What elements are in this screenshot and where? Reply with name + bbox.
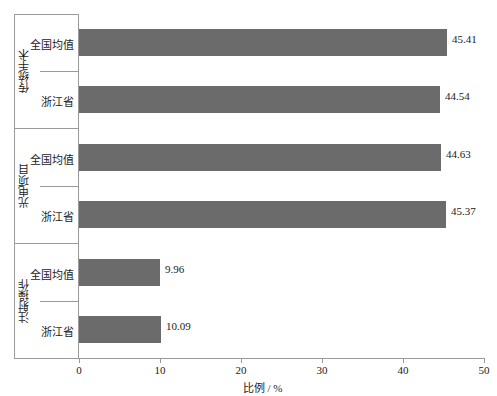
category-separator-1 <box>40 186 78 187</box>
bar-value-5: 10.09 <box>166 320 191 332</box>
x-tick-0 <box>79 358 80 363</box>
category-separator-2 <box>40 301 78 302</box>
x-tick-40 <box>403 358 404 363</box>
x-tick-30 <box>322 358 323 363</box>
bar-0 <box>79 29 447 56</box>
x-tick-label-0: 0 <box>76 364 82 376</box>
x-tick-label-50: 50 <box>479 364 490 376</box>
group-axis-spine <box>14 14 15 358</box>
bar-2 <box>79 144 441 171</box>
bar-value-1: 44.54 <box>445 90 470 102</box>
bar-value-0: 45.41 <box>452 33 477 45</box>
x-tick-10 <box>160 358 161 363</box>
x-axis-title: 比例 / % <box>0 379 497 395</box>
x-tick-label-10: 10 <box>155 364 166 376</box>
category-label-3: 浙江省 <box>41 208 74 224</box>
category-label-5: 浙江省 <box>41 323 74 339</box>
category-separator-0 <box>40 71 78 72</box>
group-label-traditional-surgery: 传统手术 <box>16 14 29 128</box>
x-tick-label-20: 20 <box>236 364 247 376</box>
category-label-0: 全国均值 <box>30 36 74 52</box>
category-label-2: 全国均值 <box>30 151 74 167</box>
bar-chart: 传统手术 光电项目 注射操作 全国均值 浙江省 全国均值 浙江省 全国均值 浙江… <box>0 0 497 396</box>
x-tick-20 <box>241 358 242 363</box>
bar-3 <box>79 201 446 228</box>
bar-value-2: 44.63 <box>446 148 471 160</box>
category-axis-spine <box>78 14 79 358</box>
bar-5 <box>79 316 161 343</box>
x-tick-50 <box>484 358 485 363</box>
category-label-1: 浙江省 <box>41 93 74 109</box>
bar-value-3: 45.37 <box>451 205 476 217</box>
bar-4 <box>79 259 160 286</box>
group-label-photoelectric-project: 光电项目 <box>16 129 29 243</box>
x-tick-label-30: 30 <box>317 364 328 376</box>
category-label-4: 全国均值 <box>30 266 74 282</box>
x-tick-label-40: 40 <box>398 364 409 376</box>
x-axis-line <box>14 358 484 359</box>
group-separator-bottom <box>14 358 78 359</box>
group-label-injection-procedure: 注射操作 <box>16 244 29 358</box>
bar-1 <box>79 86 440 113</box>
bar-value-4: 9.96 <box>165 263 184 275</box>
x-axis-title-text: 比例 / % <box>243 379 283 395</box>
